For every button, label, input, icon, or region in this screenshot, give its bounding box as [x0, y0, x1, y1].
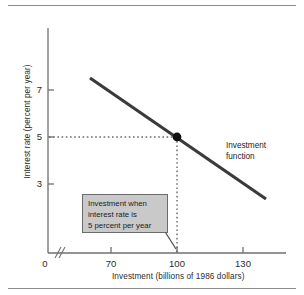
origin-label: 0 [38, 258, 52, 269]
x-axis-title: Investment (billions of 1986 dollars) [112, 272, 245, 281]
y-axis-title: Interest rate (percent per year) [23, 47, 32, 197]
callout-line-2: interest rate is [88, 209, 163, 220]
investment-point-marker [173, 133, 182, 142]
callout-line-3: 5 percent per year [88, 220, 163, 231]
callout-box: Investment when interest rate is 5 perce… [82, 194, 168, 233]
x-tick-label-70: 70 [96, 258, 126, 269]
curve-label-line-2: function [226, 152, 255, 161]
x-tick-label-130: 130 [228, 258, 258, 269]
figure-container: 7 5 3 0 70 100 130 Interest rate (percen… [0, 0, 304, 295]
callout-line-1: Investment when [88, 198, 163, 209]
curve-label-line-1: Investment [226, 141, 266, 150]
curve-label: Investment function [226, 140, 266, 162]
x-tick-label-100: 100 [162, 258, 192, 269]
